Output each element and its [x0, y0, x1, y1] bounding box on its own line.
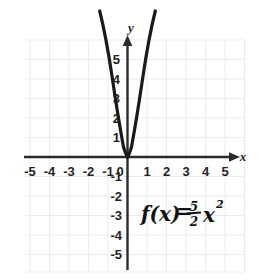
- formula-denominator: 2: [189, 215, 198, 229]
- y-tick-label: 1: [113, 130, 120, 145]
- y-tick-label: -3: [110, 208, 122, 223]
- x-tick-label: -3: [63, 164, 75, 179]
- x-tick-label: 5: [221, 164, 228, 179]
- x-tick-label: -2: [83, 164, 95, 179]
- formula-lhs: f(x): [139, 202, 180, 226]
- formula-fraction-bar: [187, 213, 201, 214]
- x-tick-label: 4: [202, 164, 210, 179]
- formula-variable: x: [202, 203, 216, 227]
- y-tick-label: -2: [110, 189, 122, 204]
- coordinate-plane-graph: -5 -4 -3 -2 -1 0 1 2 3 4 5 5 4 3 2 1 -1 …: [0, 0, 259, 280]
- x-tick-label: -4: [44, 164, 56, 179]
- graph-figure: -5 -4 -3 -2 -1 0 1 2 3 4 5 5 4 3 2 1 -1 …: [0, 0, 259, 280]
- formula-exponent: 2: [215, 198, 224, 211]
- y-tick-label: -1: [110, 169, 122, 184]
- y-tick-label: -5: [110, 247, 122, 262]
- x-tick-label: 2: [163, 164, 170, 179]
- x-axis-label: x: [239, 149, 247, 164]
- y-tick-label: -4: [110, 228, 122, 243]
- y-axis-label: y: [126, 20, 134, 35]
- x-tick-label: 3: [182, 164, 189, 179]
- y-tick-label: 5: [113, 52, 120, 67]
- x-tick-label: 1: [143, 164, 150, 179]
- x-tick-label: -5: [24, 164, 36, 179]
